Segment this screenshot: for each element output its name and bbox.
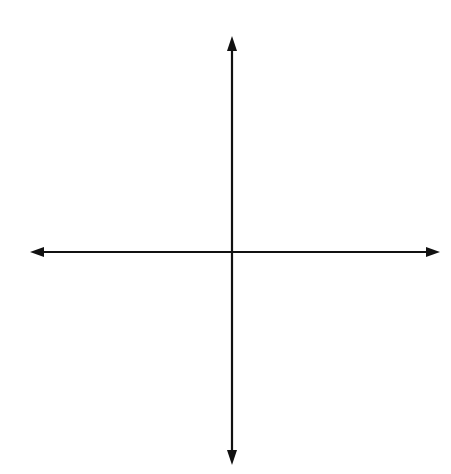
x-axis-left-arrow-icon xyxy=(30,247,44,257)
y-axis-down-arrow-icon xyxy=(227,450,237,465)
x-axis-right-arrow-icon xyxy=(426,247,440,257)
y-axis-up-arrow-icon xyxy=(227,36,237,51)
coordinate-plane xyxy=(0,0,451,474)
axes xyxy=(30,36,440,465)
